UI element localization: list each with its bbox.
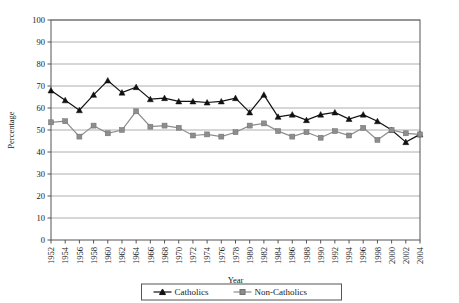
x-tick-label: 1996: [358, 247, 368, 264]
data-point: [304, 130, 309, 135]
x-tick-label: 2000: [387, 247, 397, 264]
data-point: [49, 120, 54, 125]
x-tick-label: 2002: [401, 247, 411, 264]
data-point: [91, 123, 96, 128]
data-point: [276, 129, 281, 134]
data-point: [332, 129, 337, 134]
data-point: [63, 119, 68, 124]
y-tick-label: 70: [37, 81, 46, 91]
data-point: [190, 133, 195, 138]
x-tick-label: 1984: [273, 246, 283, 264]
x-tick-label: 1986: [287, 247, 297, 264]
x-tick-label: 1968: [160, 247, 170, 264]
data-point: [318, 135, 323, 140]
data-point: [261, 92, 267, 98]
x-tick-label: 1970: [174, 247, 184, 264]
x-tick-label: 1966: [146, 247, 156, 264]
x-tick-label: 1972: [188, 247, 198, 264]
line-chart: 0102030405060708090100195219541956195819…: [0, 0, 459, 303]
x-tick-label: 1964: [131, 246, 141, 264]
y-tick-label: 40: [37, 147, 46, 157]
y-tick-label: 20: [37, 191, 46, 201]
chart-container: 0102030405060708090100195219541956195819…: [0, 0, 459, 303]
data-point: [261, 121, 266, 126]
legend-marker-square: [240, 290, 245, 295]
chart-legend: CatholicsNon-Catholics: [142, 284, 342, 300]
data-point: [105, 78, 111, 84]
x-axis: 1952195419561958196019621964196619681970…: [46, 240, 425, 264]
data-point: [148, 124, 153, 129]
data-point: [219, 134, 224, 139]
data-point: [133, 84, 139, 90]
data-point: [290, 134, 295, 139]
x-tick-label: 2004: [415, 246, 425, 264]
data-point: [105, 131, 110, 136]
data-point: [389, 128, 394, 133]
data-point: [119, 128, 124, 133]
data-point: [360, 112, 366, 118]
data-point: [233, 130, 238, 135]
data-point: [134, 109, 139, 114]
x-tick-label: 1980: [245, 247, 255, 264]
x-tick-label: 1958: [89, 247, 99, 264]
legend-label-1: Non-Catholics: [255, 287, 308, 297]
y-tick-label: 10: [37, 213, 46, 223]
x-tick-label: 1954: [60, 246, 70, 264]
x-tick-label: 1962: [117, 247, 127, 264]
x-tick-label: 1976: [217, 247, 227, 264]
y-tick-label: 90: [37, 37, 46, 47]
y-tick-label: 0: [41, 235, 45, 245]
data-point: [77, 134, 82, 139]
data-point: [247, 123, 252, 128]
y-tick-label: 60: [37, 103, 46, 113]
y-tick-label: 50: [37, 125, 46, 135]
data-point: [418, 132, 423, 137]
x-tick-label: 1974: [202, 246, 212, 264]
y-axis-title: Percentage: [6, 111, 16, 149]
data-point: [347, 133, 352, 138]
x-tick-label: 1978: [231, 247, 241, 264]
y-tick-label: 30: [37, 169, 46, 179]
y-tick-label: 100: [32, 15, 45, 25]
x-tick-label: 1998: [373, 247, 383, 264]
data-point: [48, 87, 54, 93]
x-tick-label: 1994: [344, 246, 354, 264]
series-non-catholics: [49, 109, 423, 143]
data-point: [374, 118, 380, 124]
x-tick-label: 1982: [259, 247, 269, 264]
x-tick-label: 1956: [75, 247, 85, 264]
data-point: [162, 123, 167, 128]
data-point: [205, 132, 210, 137]
legend-label-0: Catholics: [175, 287, 209, 297]
x-tick-label: 1988: [302, 247, 312, 264]
data-point: [233, 95, 239, 101]
data-point: [361, 125, 366, 130]
x-tick-label: 1960: [103, 247, 113, 264]
data-point: [403, 131, 408, 136]
data-point: [375, 137, 380, 142]
y-tick-label: 80: [37, 59, 46, 69]
x-tick-label: 1992: [330, 247, 340, 264]
x-tick-label: 1952: [46, 247, 56, 264]
data-point: [176, 125, 181, 130]
x-tick-label: 1990: [316, 247, 326, 264]
